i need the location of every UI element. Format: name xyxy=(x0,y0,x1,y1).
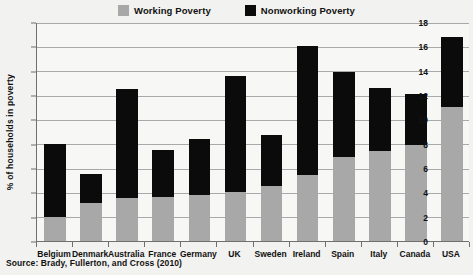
x-axis-tick-mark xyxy=(253,242,254,247)
chart-legend: Working PovertyNonworking Poverty xyxy=(0,3,473,17)
y-axis-tick-label: 14 xyxy=(412,67,428,77)
bar-group xyxy=(109,23,145,241)
bar-segment-working-poverty xyxy=(297,175,319,241)
y-axis-tick-mark xyxy=(31,193,36,194)
y-axis-tick-label: 0 xyxy=(412,237,428,247)
x-axis-tick-label: Spain xyxy=(331,249,354,259)
bar-segment-working-poverty xyxy=(441,107,463,241)
stacked-bar xyxy=(369,88,391,241)
legend-entry: Nonworking Poverty xyxy=(245,5,355,16)
bar-segment-nonworking-poverty xyxy=(152,150,174,197)
y-axis-tick-mark xyxy=(31,47,36,48)
bar-segment-nonworking-poverty xyxy=(116,89,138,199)
bar-segment-nonworking-poverty xyxy=(441,37,463,108)
stacked-bar xyxy=(189,139,211,241)
x-axis-tick-mark xyxy=(216,242,217,247)
legend-label: Working Poverty xyxy=(134,5,211,16)
y-axis-tick-label: 2 xyxy=(412,213,428,223)
stacked-bar xyxy=(297,46,319,241)
x-axis-tick-label: Canada xyxy=(400,249,431,259)
bar-group xyxy=(326,23,362,241)
bar-segment-nonworking-poverty xyxy=(189,139,211,195)
bar-segment-working-poverty xyxy=(189,195,211,241)
bar-segment-nonworking-poverty xyxy=(333,72,355,157)
legend-label: Nonworking Poverty xyxy=(261,5,355,16)
y-axis-tick-mark xyxy=(31,23,36,24)
y-axis-tick-label: 6 xyxy=(412,164,428,174)
x-axis-tick-mark xyxy=(36,242,37,247)
x-axis-tick-mark xyxy=(144,242,145,247)
x-axis-tick-label: Ireland xyxy=(293,249,321,259)
bar-group xyxy=(254,23,290,241)
x-axis-tick-label: UK xyxy=(228,249,240,259)
x-axis-tick-mark xyxy=(325,242,326,247)
bar-segment-working-poverty xyxy=(261,186,283,241)
y-axis-tick-mark xyxy=(31,217,36,218)
bar-segment-working-poverty xyxy=(225,192,247,241)
y-axis-tick-mark xyxy=(31,169,36,170)
x-axis-tick-mark xyxy=(361,242,362,247)
bar-segment-nonworking-poverty xyxy=(261,135,283,186)
stacked-bar xyxy=(80,174,102,241)
bar-group xyxy=(217,23,253,241)
y-axis-tick-label: 12 xyxy=(412,91,428,101)
stacked-bar xyxy=(261,135,283,241)
source-caption: Source: Brady, Fullerton, and Cross (201… xyxy=(6,258,182,268)
bar-group xyxy=(290,23,326,241)
bar-segment-nonworking-poverty xyxy=(225,76,247,193)
bar-group xyxy=(434,23,470,241)
x-axis-tick-mark xyxy=(180,242,181,247)
bar-group xyxy=(362,23,398,241)
bar-segment-nonworking-poverty xyxy=(369,88,391,151)
x-axis-tick-mark xyxy=(108,242,109,247)
y-axis-tick-label: 10 xyxy=(412,115,428,125)
working-poverty-swatch xyxy=(118,5,129,16)
bar-group xyxy=(73,23,109,241)
x-axis-tick-mark xyxy=(469,242,470,247)
bar-segment-working-poverty xyxy=(80,203,102,241)
y-axis-tick-label: 16 xyxy=(412,42,428,52)
y-axis-tick-mark xyxy=(31,144,36,145)
y-axis-title: % of households in poverty xyxy=(3,23,16,242)
bar-segment-working-poverty xyxy=(152,197,174,241)
bar-segment-nonworking-poverty xyxy=(44,144,66,217)
y-axis-tick-label: 8 xyxy=(412,140,428,150)
stacked-bar xyxy=(441,37,463,241)
stacked-bar xyxy=(152,150,174,241)
y-axis-tick-mark xyxy=(31,120,36,121)
bar-segment-nonworking-poverty xyxy=(80,174,102,203)
x-axis-tick-label: Germany xyxy=(180,249,217,259)
nonworking-poverty-swatch xyxy=(245,5,256,16)
bar-segment-working-poverty xyxy=(44,217,66,241)
bar-segment-working-poverty xyxy=(369,151,391,241)
x-axis-tick-label: Italy xyxy=(370,249,387,259)
legend-entry: Working Poverty xyxy=(118,5,211,16)
y-axis-tick-label: 18 xyxy=(412,18,428,28)
bar-segment-nonworking-poverty xyxy=(297,46,319,175)
chart-area: 024681012141618BelgiumDenmarkAustraliaFr… xyxy=(36,23,469,242)
bar-segment-working-poverty xyxy=(116,198,138,241)
x-axis-tick-mark xyxy=(397,242,398,247)
bar-group xyxy=(145,23,181,241)
stacked-bar xyxy=(225,76,247,241)
stacked-bar xyxy=(44,144,66,241)
x-axis-tick-mark xyxy=(433,242,434,247)
y-axis-tick-mark xyxy=(31,71,36,72)
y-axis-tick-label: 4 xyxy=(412,188,428,198)
x-axis-tick-label: Sweden xyxy=(254,249,286,259)
x-axis-tick-mark xyxy=(289,242,290,247)
plot-area xyxy=(36,23,469,242)
x-axis-tick-label: USA xyxy=(442,249,460,259)
bar-group xyxy=(37,23,73,241)
stacked-bar xyxy=(333,72,355,241)
x-axis-tick-mark xyxy=(72,242,73,247)
bar-group xyxy=(181,23,217,241)
y-axis-tick-mark xyxy=(31,96,36,97)
stacked-bar xyxy=(116,89,138,241)
bar-segment-working-poverty xyxy=(333,157,355,241)
bar-group xyxy=(398,23,434,241)
